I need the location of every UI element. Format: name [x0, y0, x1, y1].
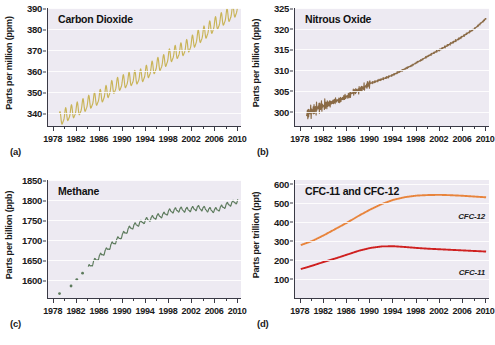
- panel-title-a: Carbon Dioxide: [58, 13, 133, 25]
- gridline: [48, 29, 241, 30]
- y-tick-label: 380: [27, 24, 42, 35]
- gridline: [48, 200, 241, 201]
- gridline: [295, 29, 489, 30]
- x-tick-major: [439, 126, 440, 131]
- y-tick-label: 500: [274, 197, 289, 208]
- x-tick-major: [392, 298, 393, 303]
- x-tick-label: 1994: [383, 134, 402, 144]
- x-tick-label: 2002: [429, 306, 448, 316]
- x-tick-major: [168, 298, 169, 303]
- x-tick-label: 1990: [360, 306, 379, 316]
- x-tick-major: [214, 126, 215, 131]
- x-tick-major: [369, 298, 370, 303]
- x-tick-label: 2002: [429, 134, 448, 144]
- plot-area-c: [47, 180, 241, 299]
- y-tick-label: 1650: [22, 255, 42, 266]
- data-point: [81, 272, 84, 275]
- x-tick-major: [145, 298, 146, 303]
- y-tick-label: 310: [274, 65, 289, 76]
- gridline: [48, 92, 241, 93]
- x-tick-major: [485, 298, 486, 303]
- x-axis-labels-b: 197819821986199019941998200220062010: [294, 134, 493, 146]
- x-tick-major: [191, 126, 192, 131]
- y-tick-label: 300: [274, 235, 289, 246]
- series-label-cfc-12: CFC-12: [458, 212, 485, 221]
- x-tick-minor: [156, 126, 157, 129]
- x-tick-label: 1998: [406, 306, 425, 316]
- x-tick-major: [76, 298, 77, 303]
- x-tick-label: 1994: [383, 306, 402, 316]
- gridline: [48, 8, 241, 9]
- x-tick-label: 1994: [136, 306, 155, 316]
- y-tick-label: 360: [27, 66, 42, 77]
- x-tick-major: [485, 126, 486, 131]
- x-tick-minor: [450, 126, 451, 129]
- y-tick-label: 100: [274, 273, 289, 284]
- gridline: [295, 112, 489, 113]
- x-tick-minor: [133, 126, 134, 129]
- gridline: [48, 113, 241, 114]
- x-tick-label: 2010: [476, 306, 495, 316]
- x-tick-minor: [110, 126, 111, 129]
- y-tick-label: 1600: [22, 275, 42, 286]
- x-tick-label: 2002: [182, 306, 201, 316]
- x-tick-label: 1998: [159, 306, 178, 316]
- x-tick-minor: [311, 126, 312, 129]
- x-tick-minor: [203, 298, 204, 301]
- x-tick-major: [122, 298, 123, 303]
- x-tick-major: [145, 126, 146, 131]
- x-tick-label: 1978: [43, 134, 62, 144]
- x-tick-minor: [450, 298, 451, 301]
- data-series-layer: [295, 8, 489, 126]
- x-tick-label: 2006: [453, 306, 472, 316]
- x-tick-label: 1978: [290, 306, 309, 316]
- x-tick-label: 1990: [360, 134, 379, 144]
- greenhouse-gas-figure: Parts per million (ppm) 3403503603703803…: [0, 0, 495, 345]
- plot-area-a: [47, 8, 241, 127]
- y-tick-label: 1700: [22, 235, 42, 246]
- plot-area-d: CFC-12 CFC-11: [294, 180, 489, 299]
- x-tick-major: [214, 298, 215, 303]
- data-point: [58, 292, 61, 295]
- x-tick-label: 1978: [43, 306, 62, 316]
- x-tick-minor: [404, 298, 405, 301]
- gridline: [48, 220, 241, 221]
- x-tick-label: 1982: [314, 134, 333, 144]
- gridline: [295, 8, 489, 9]
- panel-letter-d: (d): [257, 318, 269, 329]
- x-tick-major: [416, 298, 417, 303]
- x-tick-major: [462, 298, 463, 303]
- gridline: [48, 240, 241, 241]
- x-tick-major: [323, 126, 324, 131]
- panel-cfc: Parts per trillion (ppt) 100200300400500…: [247, 172, 495, 345]
- panel-title-c: Methane: [58, 185, 99, 197]
- x-tick-minor: [64, 126, 65, 129]
- x-tick-major: [392, 126, 393, 131]
- x-tick-label: 1990: [112, 134, 131, 144]
- gridline: [295, 70, 489, 71]
- x-tick-minor: [180, 298, 181, 301]
- gridline: [48, 280, 241, 281]
- y-tick-label: 315: [274, 44, 289, 55]
- x-tick-major: [122, 126, 123, 131]
- y-tick-label: 400: [274, 216, 289, 227]
- gridline: [295, 222, 489, 223]
- data-series-layer: [295, 180, 489, 298]
- x-tick-major: [99, 126, 100, 131]
- y-ticks-a: 340350360370380390: [14, 0, 46, 128]
- x-tick-label: 1978: [290, 134, 309, 144]
- panel-title-b: Nitrous Oxide: [305, 13, 371, 25]
- x-tick-minor: [133, 298, 134, 301]
- x-tick-label: 1986: [89, 134, 108, 144]
- x-tick-label: 1982: [66, 306, 85, 316]
- x-tick-minor: [203, 126, 204, 129]
- x-tick-major: [168, 126, 169, 131]
- data-point: [70, 285, 73, 288]
- panel-title-d: CFC-11 and CFC-12: [305, 185, 399, 197]
- x-tick-major: [416, 126, 417, 131]
- x-tick-label: 1982: [314, 306, 333, 316]
- x-tick-major: [53, 126, 54, 131]
- x-tick-major: [462, 126, 463, 131]
- x-tick-label: 2010: [476, 134, 495, 144]
- y-tick-label: 325: [274, 3, 289, 14]
